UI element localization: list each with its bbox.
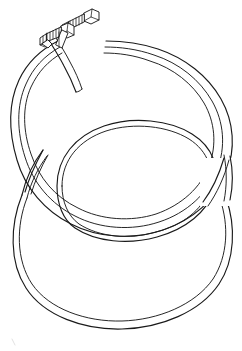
lower-coil-outer-wall bbox=[13, 169, 232, 329]
upper-coil-occlusion-mask bbox=[13, 42, 231, 168]
upper-coil-inner-wall bbox=[25, 53, 214, 219]
fitting-assembly bbox=[40, 9, 99, 48]
right-crossing-detail bbox=[200, 155, 236, 206]
lower-coil-inner-wall bbox=[19, 173, 225, 321]
coiled-hose-drawing bbox=[0, 0, 242, 351]
inner-bore-ellipse bbox=[57, 120, 216, 241]
illustration-canvas bbox=[0, 0, 242, 351]
hose-tail-tip bbox=[76, 89, 82, 92]
faint-artifact bbox=[12, 339, 15, 345]
faint-stray-mark bbox=[12, 339, 15, 345]
inner-bore-outer-edge bbox=[57, 120, 216, 241]
lower-coil-loop bbox=[13, 150, 232, 329]
